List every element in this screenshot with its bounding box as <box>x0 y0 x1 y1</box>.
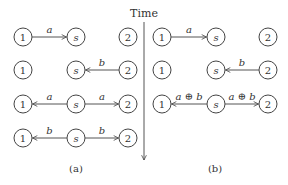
node-label: 1 <box>20 133 26 144</box>
panel-a-caption: (a) <box>69 163 83 174</box>
node-label: 2 <box>125 133 131 144</box>
node-label: 2 <box>125 99 131 110</box>
node-label: s <box>73 99 78 110</box>
node-label: s <box>73 65 78 76</box>
edge-label: b <box>99 57 105 68</box>
node-label: s <box>73 133 78 144</box>
panel-b-caption: (b) <box>208 163 222 174</box>
edge-label: a ⊕ b <box>228 91 255 102</box>
edge-label: b <box>99 125 105 136</box>
edge-label: b <box>239 57 245 68</box>
edge-label: a <box>186 24 192 35</box>
edge-label: a <box>99 91 105 102</box>
node-label: 1 <box>159 32 165 43</box>
node-label: 2 <box>125 32 131 43</box>
network-coding-diagram: Time 1s2a1s2b1s2aa1s2bb1s2a1s2b1s2a ⊕ ba… <box>0 0 288 185</box>
node-label: 1 <box>20 65 26 76</box>
node-label: s <box>213 99 218 110</box>
node-label: 2 <box>265 32 271 43</box>
node-label: 2 <box>265 99 271 110</box>
edge-label: a ⊕ b <box>175 91 202 102</box>
node-label: s <box>73 32 78 43</box>
edge-label: b <box>46 125 52 136</box>
node-label: 2 <box>125 65 131 76</box>
node-label: 1 <box>159 65 165 76</box>
edge-label: a <box>47 91 53 102</box>
node-label: s <box>213 65 218 76</box>
node-label: 1 <box>159 99 165 110</box>
node-label: 1 <box>20 99 26 110</box>
edge-label: a <box>47 24 53 35</box>
node-label: s <box>213 32 218 43</box>
time-axis-label: Time <box>130 7 158 20</box>
node-label: 1 <box>20 32 26 43</box>
node-label: 2 <box>265 65 271 76</box>
